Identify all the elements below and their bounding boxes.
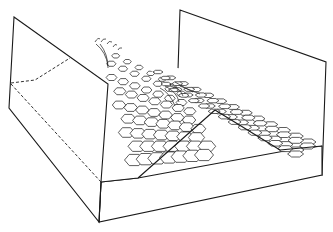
diagram-svg bbox=[0, 0, 333, 232]
hex-cell bbox=[161, 82, 171, 85]
left-end-panel bbox=[9, 17, 108, 222]
hex-cell bbox=[242, 115, 256, 120]
hex-cell bbox=[172, 105, 184, 112]
hex-cell bbox=[130, 71, 139, 76]
hex-cell bbox=[130, 83, 141, 89]
hex-cell bbox=[153, 70, 163, 73]
hex-cell bbox=[149, 98, 161, 105]
hex-cell bbox=[219, 104, 232, 109]
hex-cell bbox=[142, 76, 151, 81]
hex-cell bbox=[135, 65, 143, 69]
hex-cell bbox=[123, 60, 131, 64]
hex-cell bbox=[112, 54, 120, 58]
hex-cell bbox=[184, 108, 196, 115]
hex-cell bbox=[153, 91, 164, 97]
hex-cell bbox=[141, 87, 152, 93]
hex-cell bbox=[106, 75, 117, 81]
hex-cell bbox=[230, 110, 243, 115]
hex-cell bbox=[178, 94, 189, 98]
hex-cell bbox=[288, 151, 304, 157]
hex-cell bbox=[137, 95, 149, 102]
hex-cell bbox=[118, 79, 129, 85]
hex-cell bbox=[188, 99, 199, 103]
hex-cell bbox=[161, 76, 171, 79]
hex-cell bbox=[160, 101, 172, 108]
hex-cell bbox=[114, 88, 126, 95]
hex-cell bbox=[125, 91, 137, 98]
hex-cell bbox=[207, 99, 219, 103]
hex-cell bbox=[195, 93, 207, 97]
hex-cell bbox=[198, 104, 210, 108]
block-diagram bbox=[0, 0, 333, 232]
hex-cell bbox=[118, 66, 127, 71]
